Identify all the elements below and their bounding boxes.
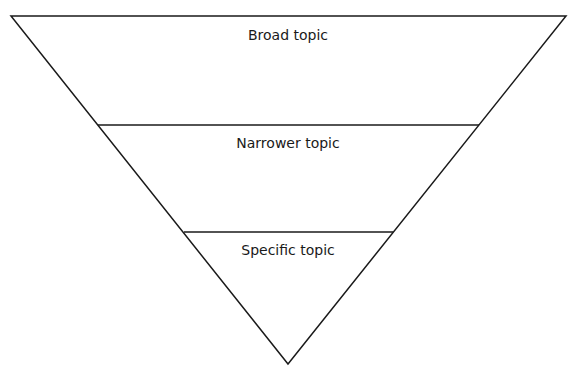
level-label-broad: Broad topic	[248, 27, 328, 43]
funnel-diagram: Broad topic Narrower topic Specific topi…	[0, 0, 572, 381]
level-label-specific: Specific topic	[241, 242, 334, 258]
funnel-outline	[11, 16, 566, 364]
level-label-narrower: Narrower topic	[236, 135, 339, 151]
